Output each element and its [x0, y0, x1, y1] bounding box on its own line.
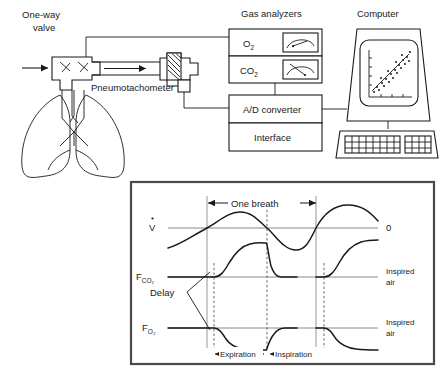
computer-monitor — [347, 29, 430, 129]
gas-analyzers-unit: O2 CO2 — [229, 29, 322, 83]
delay-label: Delay — [150, 287, 175, 298]
respiratory-measurement-diagram: One-way valve Pneumotachometer Gas analy… — [0, 0, 439, 378]
waveform-panel: One breath Delay Expiration Inspiration — [131, 182, 434, 364]
one-breath-label: One breath — [231, 198, 279, 209]
one-way-valve-label-line2: valve — [33, 22, 55, 33]
co2-gauge-icon — [283, 60, 318, 79]
svg-text:air: air — [386, 329, 395, 338]
o2-gauge-icon — [283, 33, 318, 52]
pneumotach-signal-line — [184, 92, 229, 108]
svg-text:Inspired: Inspired — [386, 318, 414, 327]
flow-zero-label: 0 — [386, 222, 391, 233]
flow-direction-arrow — [104, 65, 146, 72]
pneumotachometer-label: Pneumotachometer — [91, 82, 174, 93]
inspiration-label: Inspiration — [275, 350, 312, 359]
interface-label: Interface — [254, 132, 291, 143]
gas-sample-line — [86, 37, 229, 57]
svg-text:V: V — [149, 222, 156, 233]
gas-analyzers-label: Gas analyzers — [241, 8, 302, 19]
converter-unit: A/D converter Interface — [229, 95, 322, 151]
expiration-label: Expiration — [220, 350, 256, 359]
inlet-arrow — [22, 65, 48, 72]
svg-text:air: air — [386, 278, 395, 287]
lungs-illustration — [22, 90, 125, 177]
breathing-tube — [92, 62, 160, 75]
one-way-valve-label-line1: One-way — [22, 9, 60, 20]
svg-text:Inspired: Inspired — [386, 267, 414, 276]
ad-converter-label: A/D converter — [243, 104, 301, 115]
computer-label: Computer — [357, 8, 399, 19]
computer-keyboard — [336, 131, 438, 158]
